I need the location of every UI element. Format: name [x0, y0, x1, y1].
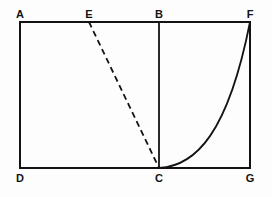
geometry-figure: A E B F D C G — [0, 0, 272, 197]
vertex-label-C: C — [155, 173, 163, 184]
figure-canvas — [0, 0, 272, 197]
vertex-label-G: G — [246, 173, 255, 184]
segment-EC — [89, 22, 159, 168]
vertex-label-D: D — [16, 173, 24, 184]
outer-rectangle — [20, 22, 250, 168]
curve-CF — [159, 22, 250, 168]
vertex-label-A: A — [16, 9, 24, 20]
vertex-label-F: F — [247, 9, 254, 20]
vertex-label-E: E — [85, 9, 92, 20]
vertex-label-B: B — [155, 9, 163, 20]
